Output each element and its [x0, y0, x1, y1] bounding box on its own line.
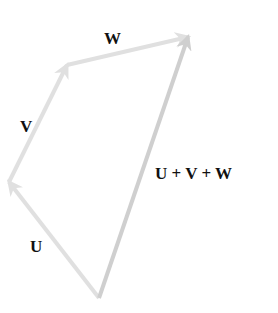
vector-v-label: V — [20, 118, 32, 135]
vector-w-label: W — [104, 30, 121, 47]
vector-w-arrow — [67, 37, 188, 65]
vector-diagram — [0, 0, 278, 313]
vector-u-arrow — [9, 182, 99, 298]
vector-u-label: U — [30, 238, 42, 255]
vector-v-arrow — [9, 65, 67, 182]
resultant-vector-label: U + V + W — [155, 165, 232, 182]
